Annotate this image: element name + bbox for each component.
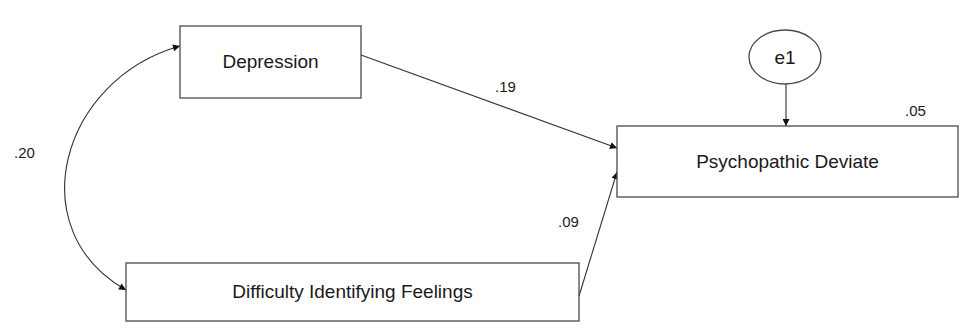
path-coefficient-dif-psych: .09 [558,213,579,230]
node-depression: Depression [180,26,361,98]
r-squared-label: .05 [905,102,926,119]
path-diagram: .20 .19 .09 Depression Difficulty Identi… [0,0,977,331]
node-difficulty-identifying-feelings: Difficulty Identifying Feelings [126,263,579,321]
dif-label: Difficulty Identifying Feelings [232,281,472,302]
node-psychopathic-deviate: Psychopathic Deviate .05 [617,102,958,197]
depression-label: Depression [222,51,318,72]
psych-label: Psychopathic Deviate [696,151,879,172]
path-coefficient-depression-psych: .19 [495,78,516,95]
path-arrow-dif-psych [579,172,617,296]
e1-label: e1 [774,47,795,68]
covariance-coefficient: .20 [14,144,35,161]
covariance-arrow-depression-dif [65,46,180,290]
path-arrow-depression-psych [361,55,617,148]
node-e1: e1 [749,30,821,84]
